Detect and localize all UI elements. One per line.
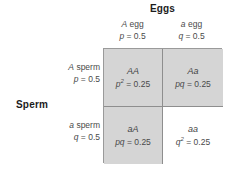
row-1-gamete-label: a sperm [69,120,100,130]
row-header-A-sperm: A sperm p = 0.5 [28,62,100,85]
column-0-gamete-label: A egg [121,19,143,29]
row-1-gamete: sperm [74,120,100,130]
punnett-cell-AA: AA p2 = 0.25 [104,49,163,107]
column-header-A-egg: A egg p = 0.5 [103,19,162,42]
row-1-frequency: q = 0.5 [28,132,100,144]
row-0-gamete-label: A sperm [68,62,100,72]
punnett-cell-aa: aa q2 = 0.25 [163,107,223,164]
cell-2-probability: pq = 0.25 [115,136,151,148]
column-header-a-egg: a egg q = 0.5 [162,19,221,42]
cell-1-probability: pq = 0.25 [175,78,211,90]
column-0-frequency: p = 0.5 [103,31,162,43]
column-1-freq-value: = 0.5 [183,31,205,41]
row-0-freq-value: = 0.5 [78,74,100,84]
eggs-axis-title: Eggs [103,3,222,14]
punnett-cell-Aa: Aa pq = 0.25 [163,49,223,107]
column-0-gamete: egg [127,19,144,29]
column-0-freq-value: = 0.5 [124,31,146,41]
row-0-gamete: sperm [74,62,100,72]
cell-1-prob-symbol: pq [175,79,184,89]
cell-2-genotype: aA [127,123,138,135]
row-header-a-sperm: a sperm q = 0.5 [28,120,100,143]
column-1-frequency: q = 0.5 [162,31,221,43]
cell-0-genotype: AA [127,65,139,77]
cell-0-prob-value: = 0.25 [124,79,150,89]
cell-3-probability: q2 = 0.25 [176,136,210,148]
cell-2-prob-value: = 0.25 [125,137,151,147]
column-1-gamete-label: a egg [181,19,202,29]
sperm-axis-title: Sperm [16,99,48,110]
cell-2-prob-symbol: pq [115,137,124,147]
row-0-frequency: p = 0.5 [28,74,100,86]
punnett-cell-aA: aA pq = 0.25 [104,107,163,164]
punnett-square-diagram: Eggs A egg p = 0.5 a egg q = 0.5 Sperm A… [0,0,233,174]
row-1-freq-value: = 0.5 [78,132,100,142]
cell-1-prob-value: = 0.25 [185,79,211,89]
cell-0-probability: p2 = 0.25 [116,78,150,90]
cell-3-genotype: aa [188,123,198,135]
cell-1-genotype: Aa [187,65,198,77]
cell-3-prob-value: = 0.25 [184,137,210,147]
punnett-grid: AA p2 = 0.25 Aa pq = 0.25 aA pq = 0.25 a… [103,48,222,163]
column-1-gamete: egg [186,19,203,29]
